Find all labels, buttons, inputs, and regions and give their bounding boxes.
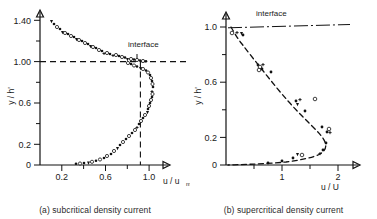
y-ticklabel-06: 0.6	[204, 77, 217, 87]
panel-subcritical: 0 0.2 0.6 1.00 1.40 0.2 0.6 1.0 u / u ma…	[0, 0, 190, 219]
supercritical-plot: 0 0.2 0.6 1.0 1 2 u / U y / h' interface	[190, 0, 377, 195]
y-axis-title: y / h'	[193, 87, 203, 105]
y-ticklabel-06: 0.6	[18, 98, 31, 108]
x-axis-title: u / u	[163, 176, 180, 186]
y-ticklabel-0: 0	[212, 160, 217, 170]
x-ticklabel-1: 1	[279, 172, 284, 182]
y-ticklabel-14: 1.40	[13, 16, 31, 26]
caption-supercritical: (b) supercritical density current	[190, 205, 377, 215]
density-current-figure: 0 0.2 0.6 1.00 1.40 0.2 0.6 1.0 u / u ma…	[0, 0, 377, 219]
y-ticklabel-02: 0.2	[204, 133, 217, 143]
profile-curve	[228, 27, 326, 165]
y-ticklabel-10: 1.0	[204, 22, 217, 32]
interface-line	[228, 25, 350, 28]
interface-annotation: interface	[128, 40, 159, 49]
y-ticklabel-10: 1.00	[13, 57, 31, 67]
data-series-measured	[230, 31, 331, 164]
y-ticklabel-02: 0.2	[18, 140, 31, 150]
y-axis-title: y / h'	[6, 87, 16, 105]
y-ticklabel-0: 0	[26, 160, 31, 170]
data-series-body	[75, 61, 155, 165]
panel-supercritical: 0 0.2 0.6 1.0 1 2 u / U y / h' interface	[190, 0, 377, 219]
x-ticklabel-10: 1.0	[143, 172, 156, 182]
x-ticklabel-2: 2	[335, 172, 340, 182]
x-ticklabel-06: 0.6	[99, 172, 112, 182]
x-ticklabel-02: 0.2	[56, 172, 69, 182]
x-axis-title: u / U	[321, 182, 339, 192]
caption-subcritical: (a) subcritical density current	[0, 205, 190, 215]
subcritical-plot: 0 0.2 0.6 1.00 1.40 0.2 0.6 1.0 u / u ma…	[0, 0, 190, 195]
interface-annotation: interface	[256, 9, 287, 18]
